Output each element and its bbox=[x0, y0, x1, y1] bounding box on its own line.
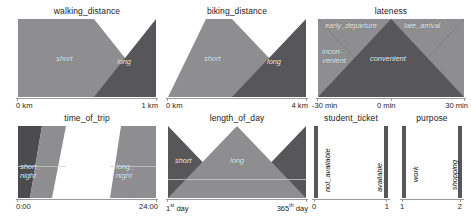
bar-not-available bbox=[314, 126, 318, 198]
x-tick-label-0: 0 bbox=[312, 202, 316, 211]
day-last-rest: day bbox=[294, 204, 308, 213]
x-axis bbox=[166, 98, 308, 99]
x-tick-label-2: 30 min bbox=[445, 101, 468, 110]
x-tick-label-1: 0 min bbox=[377, 101, 396, 110]
region-label-available: available bbox=[375, 163, 384, 192]
panel-title: length_of_day bbox=[166, 113, 308, 123]
region-label-long: long bbox=[230, 156, 244, 165]
panel-title: purpose bbox=[400, 113, 464, 123]
region-label-late-arrival: late_arrival bbox=[404, 21, 440, 30]
panel-title: walking_distance bbox=[16, 6, 158, 16]
inconvenient-line-2: venient bbox=[322, 56, 346, 65]
x-tick-label-0: 0 km bbox=[16, 101, 32, 110]
region-label-not-available: not_available bbox=[323, 148, 332, 192]
region-label-work: work bbox=[411, 166, 420, 182]
panel-purpose: purpose work shopping 1 2 bbox=[400, 113, 464, 213]
x-tick-label-0: 0 km bbox=[166, 101, 182, 110]
panel-title: time_of_trip bbox=[16, 113, 158, 123]
x-tick-label-1: 1 bbox=[385, 202, 389, 211]
region-label-inconvenient: incon- venient bbox=[322, 47, 346, 65]
x-axis bbox=[16, 98, 158, 99]
plot-area: short_ night long_ night bbox=[18, 126, 156, 198]
plot-area: early_departure late_arrival incon- veni… bbox=[318, 19, 464, 97]
inconvenient-line-1: incon- bbox=[322, 47, 342, 56]
bar-available bbox=[384, 126, 388, 198]
x-axis bbox=[400, 199, 464, 200]
panel-walking-distance: walking_distance short long 0 km 1 km bbox=[16, 6, 158, 106]
panel-lateness: lateness early_departure late_arrival in… bbox=[316, 6, 466, 106]
x-axis bbox=[16, 199, 158, 200]
x-tick-label-0: 1 bbox=[400, 202, 404, 211]
panel-title: student_ticket bbox=[312, 113, 390, 123]
panel-title: lateness bbox=[316, 6, 466, 16]
x-tick-label-1: 2 bbox=[458, 202, 462, 211]
region-label-early-departure: early_departure bbox=[325, 21, 377, 30]
x-tick-label-0: 0:00 bbox=[16, 202, 31, 211]
plot-area: short long bbox=[168, 126, 306, 198]
region-label-long-night: long_ night bbox=[116, 162, 134, 180]
region-label-short-night: short_ night bbox=[20, 162, 41, 180]
x-axis bbox=[312, 199, 390, 200]
short-night-line-1: short_ bbox=[20, 162, 41, 171]
region-label-short: short bbox=[204, 54, 220, 63]
long-night-line-2: night bbox=[116, 171, 132, 180]
membership-regions bbox=[18, 19, 156, 97]
short-night-line-2: night bbox=[20, 171, 36, 180]
long-night-line-1: long_ bbox=[116, 162, 134, 171]
region-label-long: long bbox=[267, 57, 281, 66]
region-label-long: long bbox=[117, 57, 131, 66]
plot-area: work shopping bbox=[402, 126, 462, 198]
panel-student-ticket: student_ticket not_available available 0… bbox=[312, 113, 390, 213]
x-tick-label-1: 24:00 bbox=[139, 202, 158, 211]
x-axis bbox=[166, 199, 308, 200]
x-tick-label-1: 365th day bbox=[277, 202, 308, 213]
membership-regions bbox=[168, 19, 306, 97]
panel-biking-distance: biking_distance short long 0 km 4 km bbox=[166, 6, 308, 106]
x-tick-label-0: -30 min bbox=[312, 101, 337, 110]
region-label-shopping: shopping bbox=[450, 160, 459, 190]
region-label-convenient: convenient bbox=[370, 54, 406, 63]
region-label-short: short bbox=[175, 156, 191, 165]
plot-area: short long bbox=[168, 19, 306, 97]
day-first-rest: day bbox=[174, 204, 188, 213]
panel-length-of-day: length_of_day short long 1st day 365th d… bbox=[166, 113, 308, 213]
panel-time-of-trip: time_of_trip short_ night long_ night 0:… bbox=[16, 113, 158, 213]
figure-canvas: walking_distance short long 0 km 1 km bi… bbox=[0, 0, 471, 216]
level-line bbox=[168, 179, 306, 180]
bar-work bbox=[402, 126, 406, 198]
x-tick-label-0: 1st day bbox=[166, 202, 189, 213]
plot-area: not_available available bbox=[314, 126, 388, 198]
region-label-short: short bbox=[56, 54, 72, 63]
plot-area: short long bbox=[18, 19, 156, 97]
panel-title: biking_distance bbox=[166, 6, 308, 16]
day-last-num: 365 bbox=[277, 204, 290, 213]
x-tick-label-1: 1 km bbox=[142, 101, 158, 110]
x-tick-label-1: 4 km bbox=[292, 101, 308, 110]
